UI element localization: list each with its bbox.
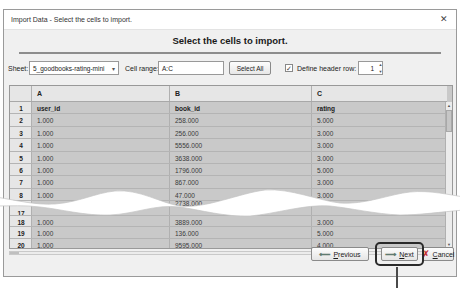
torn-paper-overlay: [0, 181, 460, 221]
cell-b[interactable]: 258.000: [170, 114, 312, 125]
cell-b[interactable]: 136.000: [170, 227, 312, 237]
cancel-x-icon: ✗: [422, 249, 430, 259]
sheet-dropdown[interactable]: 5_goodbooks-rating-mini ▾: [29, 61, 119, 75]
dialog-title: Import Data - Select the cells to import…: [4, 16, 132, 23]
page-title: Select the cells to import.: [4, 35, 456, 46]
sheet-label: Sheet:: [8, 65, 28, 72]
cell-a[interactable]: 1.000: [32, 152, 170, 163]
import-data-dialog: Import Data - Select the cells to import…: [3, 9, 457, 277]
cell-c[interactable]: 5.000: [312, 227, 447, 237]
cell-b[interactable]: book_id: [170, 102, 312, 113]
table-row[interactable]: 5 1.000 3638.000 3.000: [10, 152, 447, 164]
checkmark-icon: ✓: [286, 65, 292, 72]
cell-range-value: A:C: [162, 65, 173, 72]
define-header-label: Define header row:: [297, 65, 356, 72]
cell-a[interactable]: 1.000: [32, 164, 170, 175]
scrollbar-thumb[interactable]: [446, 110, 452, 132]
cell-c[interactable]: rating: [312, 102, 447, 113]
column-header-a[interactable]: A: [32, 86, 170, 101]
close-icon[interactable]: ✕: [440, 14, 448, 24]
cells-preview-table: A B C 2738.000 1 user_id book_id rating …: [9, 85, 453, 249]
screenshot-stage: Import Data - Select the cells to import…: [0, 0, 460, 288]
cell-a[interactable]: user_id: [32, 102, 170, 113]
spin-down-icon[interactable]: ▼: [379, 69, 383, 74]
cell-a[interactable]: 1.000: [32, 114, 170, 125]
table-row[interactable]: 19 1.000 136.000 5.000: [10, 227, 447, 238]
cell-b[interactable]: 9595.000: [170, 239, 312, 249]
chevron-down-icon: ▾: [112, 65, 115, 72]
vertical-scrollbar[interactable]: ▲ ▼: [445, 102, 452, 248]
cell-c[interactable]: 5.000: [312, 114, 447, 125]
sheet-dropdown-value: 5_goodbooks-rating-mini: [33, 65, 105, 72]
cell-range-label: Cell range:: [125, 65, 159, 72]
cell-b[interactable]: 3638.000: [170, 152, 312, 163]
hscrollbar-thumb[interactable]: [10, 252, 19, 254]
column-header-c[interactable]: C: [312, 86, 447, 101]
table-row[interactable]: 1 user_id book_id rating: [10, 102, 447, 114]
define-header-checkbox[interactable]: ✓: [285, 64, 293, 72]
previous-button[interactable]: ⟵ Previous: [311, 247, 369, 261]
table-row[interactable]: 6 1.000 1796.000 5.000: [10, 164, 447, 176]
cell-b[interactable]: 1796.000: [170, 164, 312, 175]
table-row[interactable]: 2 1.000 258.000 5.000: [10, 114, 447, 126]
cell-b[interactable]: 256.000: [170, 127, 312, 138]
cancel-button[interactable]: ✗ Cancel: [422, 247, 454, 261]
arrow-left-icon: ⟵: [319, 250, 330, 259]
select-all-button[interactable]: Select All: [229, 61, 271, 75]
cell-c[interactable]: 5.000: [312, 164, 447, 175]
dialog-titlebar: Import Data - Select the cells to import…: [4, 10, 456, 30]
column-header-b[interactable]: B: [170, 86, 312, 101]
cell-c[interactable]: 3.000: [312, 139, 447, 150]
cell-range-input[interactable]: A:C: [158, 61, 224, 75]
header-row-value: 1: [370, 65, 374, 72]
heading-separator: [19, 52, 441, 54]
cell-c[interactable]: 3.000: [312, 127, 447, 138]
corner-header[interactable]: [10, 86, 32, 101]
table-row[interactable]: 3 1.000 256.000 3.000: [10, 127, 447, 139]
scroll-up-icon[interactable]: ▲: [446, 103, 452, 108]
next-button[interactable]: ⟶ Next: [381, 247, 418, 261]
spinner-arrows[interactable]: ▲ ▼: [377, 62, 384, 74]
column-header-row: A B C: [10, 86, 447, 102]
cell-a[interactable]: 1.000: [32, 239, 170, 249]
table-row[interactable]: 4 1.000 5556.000 3.000: [10, 139, 447, 151]
cell-c[interactable]: 3.000: [312, 152, 447, 163]
next-callout-line: [396, 267, 398, 288]
spin-up-icon[interactable]: ▲: [379, 62, 383, 67]
cell-a[interactable]: 1.000: [32, 227, 170, 237]
cell-a[interactable]: 1.000: [32, 127, 170, 138]
cell-b[interactable]: 5556.000: [170, 139, 312, 150]
arrow-right-icon: ⟶: [385, 250, 396, 259]
cell-a[interactable]: 1.000: [32, 139, 170, 150]
